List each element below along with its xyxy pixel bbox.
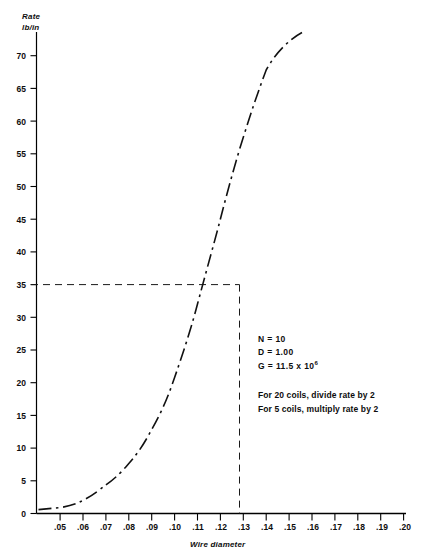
y-tick-label: 65 (8, 84, 26, 94)
x-axis-title: Wire diameter (190, 540, 245, 549)
y-tick-label: 5 (8, 476, 26, 486)
y-tick-label: 40 (8, 247, 26, 257)
parameter-line-n: N = 10 (258, 334, 318, 344)
x-tick-label: .08 (117, 522, 141, 532)
parameter-d-op: = (267, 347, 272, 357)
y-tick-label: 50 (8, 182, 26, 192)
x-tick-label: .05 (48, 522, 72, 532)
y-tick-label: 20 (8, 378, 26, 388)
x-tick-label: .13 (232, 522, 256, 532)
parameter-d-label: D (258, 347, 265, 357)
parameter-n-op: = (267, 334, 272, 344)
y-tick-label: 60 (8, 117, 26, 127)
y-tick-label: 35 (8, 280, 26, 290)
x-tick-label: .18 (347, 522, 371, 532)
x-tick-label: .10 (163, 522, 187, 532)
spring-rate-chart: Rate lb/in 0 5 10 15 20 25 30 35 40 45 5… (0, 0, 440, 558)
y-tick-label: 10 (8, 443, 26, 453)
parameter-line-d: D = 1.00 (258, 347, 318, 357)
x-tick-label: .16 (301, 522, 325, 532)
notes-annotation-block: For 20 coils, divide rate by 2 For 5 coi… (258, 390, 378, 414)
parameter-n-value: 10 (275, 334, 285, 344)
rate-curve (39, 33, 303, 510)
x-tick-label: .06 (71, 522, 95, 532)
x-tick-label: .17 (324, 522, 348, 532)
y-tick-label: 15 (8, 411, 26, 421)
x-tick-label: .07 (94, 522, 118, 532)
y-tick-label: 45 (8, 215, 26, 225)
parameter-g-op: = (268, 361, 273, 371)
y-tick-label: 30 (8, 313, 26, 323)
x-tick-label: .14 (255, 522, 279, 532)
parameter-g-exponent: 6 (315, 360, 319, 366)
parameter-n-label: N (258, 334, 265, 344)
x-tick-label: .12 (209, 522, 233, 532)
y-tick-label: 25 (8, 345, 26, 355)
x-tick-label: .19 (370, 522, 394, 532)
note-line-5-coils: For 5 coils, multiply rate by 2 (258, 404, 378, 414)
y-tick-label: 0 (8, 509, 26, 519)
parameter-g-value: 11.5 x 10 (276, 361, 315, 371)
y-axis-title-units: lb/in (22, 23, 39, 32)
parameter-line-g: G = 11.5 x 106 (258, 360, 318, 371)
parameter-d-value: 1.00 (275, 347, 293, 357)
note-line-20-coils: For 20 coils, divide rate by 2 (258, 390, 378, 400)
y-axis-title-rate: Rate (22, 12, 40, 21)
chart-plot-area (0, 0, 440, 558)
y-tick-label: 70 (8, 51, 26, 61)
x-tick-label: .11 (186, 522, 210, 532)
y-tick-label: 55 (8, 149, 26, 159)
x-tick-label: .15 (278, 522, 302, 532)
x-tick-label: .20 (393, 522, 417, 532)
x-tick-label: .09 (140, 522, 164, 532)
parameter-g-label: G (258, 361, 265, 371)
x-axis-ticks (60, 514, 404, 521)
parameter-annotation-block: N = 10 D = 1.00 G = 11.5 x 106 (258, 334, 318, 371)
